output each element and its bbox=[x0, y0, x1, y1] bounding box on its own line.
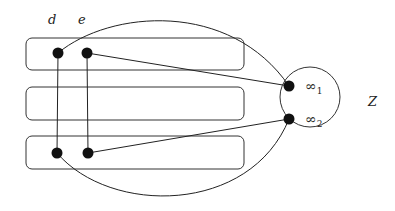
edge-e-vertical bbox=[87, 53, 88, 153]
node-d-top bbox=[53, 48, 64, 59]
label-z: Z bbox=[367, 94, 378, 109]
label-inf2: ∞2 bbox=[305, 111, 322, 129]
box-2 bbox=[26, 87, 244, 120]
node-e-top bbox=[82, 48, 93, 59]
diagram-canvas: d e Z ∞1 ∞2 bbox=[0, 0, 395, 211]
label-d: d bbox=[48, 12, 56, 27]
node-inf2 bbox=[284, 114, 295, 125]
edge-d-vertical bbox=[57, 53, 58, 153]
node-e-bottom bbox=[83, 148, 94, 159]
label-inf1: ∞1 bbox=[305, 78, 322, 96]
node-inf1 bbox=[284, 81, 295, 92]
arc-d-bottom-inf2 bbox=[57, 119, 289, 196]
node-d-bottom bbox=[52, 148, 63, 159]
label-e: e bbox=[78, 12, 86, 27]
arc-d-top-inf1 bbox=[58, 21, 289, 86]
